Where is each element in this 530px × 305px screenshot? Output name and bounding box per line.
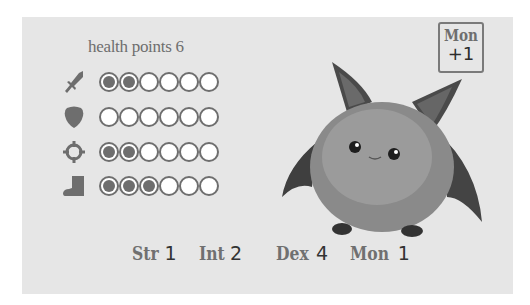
sword-icon — [62, 71, 86, 93]
pip-empty — [179, 176, 199, 196]
pip-empty — [159, 72, 179, 92]
health-points: health points 6 — [88, 37, 184, 57]
shield-icon — [62, 106, 86, 128]
pip-empty — [99, 107, 119, 127]
attribute-label: Str — [132, 242, 159, 264]
pip-filled — [99, 142, 119, 162]
attribute-value: 2 — [230, 242, 242, 264]
stat-row-defense — [62, 106, 219, 128]
pip-empty — [159, 107, 179, 127]
attribute-value: 1 — [165, 242, 177, 264]
attribute-mon: Mon 1 — [350, 242, 410, 264]
pip-empty — [199, 142, 219, 162]
badge-label: Mon — [443, 27, 479, 44]
health-label: health points — [88, 37, 171, 56]
attribute-label: Dex — [276, 242, 309, 264]
pip-empty — [179, 142, 199, 162]
pip-empty — [139, 72, 159, 92]
crosshair-icon — [62, 141, 86, 163]
attribute-value: 4 — [316, 242, 328, 264]
stat-row-speed — [62, 175, 219, 197]
pip-empty — [199, 72, 219, 92]
pip-empty — [139, 107, 159, 127]
pip-filled — [119, 142, 139, 162]
attribute-bar: Str 1 Int 2 Dex 4 Mon 1 — [132, 242, 432, 264]
attribute-label: Int — [199, 242, 225, 264]
pip-empty — [199, 176, 219, 196]
pip-track-aim — [99, 142, 219, 162]
health-value: 6 — [175, 37, 183, 56]
pip-empty — [119, 107, 139, 127]
pip-filled — [99, 176, 119, 196]
attribute-str: Str 1 — [132, 242, 177, 264]
pip-empty — [179, 72, 199, 92]
attribute-dex: Dex 4 — [276, 242, 328, 264]
monster-card: health points 6 — [22, 17, 513, 294]
pip-filled — [99, 72, 119, 92]
boot-icon — [62, 175, 86, 197]
creature-illustration — [277, 57, 487, 242]
pip-empty — [199, 107, 219, 127]
pip-track-attack — [99, 72, 219, 92]
stat-row-attack — [62, 71, 219, 93]
pip-empty — [159, 176, 179, 196]
attribute-int: Int 2 — [199, 242, 243, 264]
pip-track-defense — [99, 107, 219, 127]
pip-filled — [139, 176, 159, 196]
pip-filled — [119, 176, 139, 196]
pip-empty — [159, 142, 179, 162]
attribute-label: Mon — [350, 242, 389, 264]
stat-row-aim — [62, 141, 219, 163]
attribute-value: 1 — [398, 242, 410, 264]
pip-filled — [119, 72, 139, 92]
pip-track-speed — [99, 176, 219, 196]
pip-empty — [139, 142, 159, 162]
pip-empty — [179, 107, 199, 127]
